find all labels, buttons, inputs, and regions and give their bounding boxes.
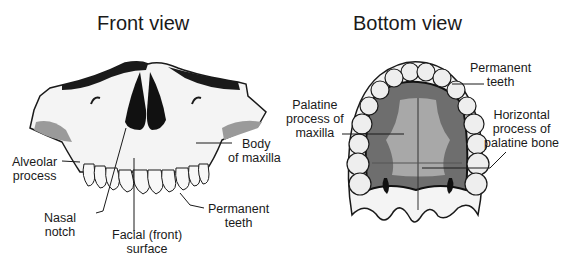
bottom-palate [347, 62, 489, 222]
label-body-of-maxilla: Body of maxilla [228, 137, 281, 165]
label-alveolar-process: Alveolar process [12, 155, 57, 183]
label-horizontal-process: Horizontal process of palatine bone [484, 108, 559, 150]
bottom-view-title: Bottom view [353, 12, 462, 35]
front-view-title: Front view [97, 12, 189, 35]
front-maxilla [30, 62, 266, 194]
label-facial-surface: Facial (front) surface [112, 228, 182, 256]
label-nasal-notch: Nasal notch [44, 211, 76, 239]
label-permanent-teeth-front: Permanent teeth [208, 202, 269, 230]
label-palatine-process: Palatine process of maxilla [286, 98, 344, 140]
label-permanent-teeth-bottom: Permanent teeth [470, 61, 531, 89]
